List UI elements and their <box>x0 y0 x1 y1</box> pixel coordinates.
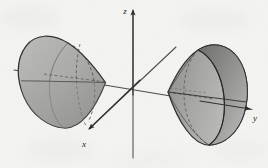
paper-grain-overlay <box>0 0 268 168</box>
hyperboloid-figure: z y x <box>0 0 268 168</box>
figure-canvas: z y x <box>0 0 268 168</box>
